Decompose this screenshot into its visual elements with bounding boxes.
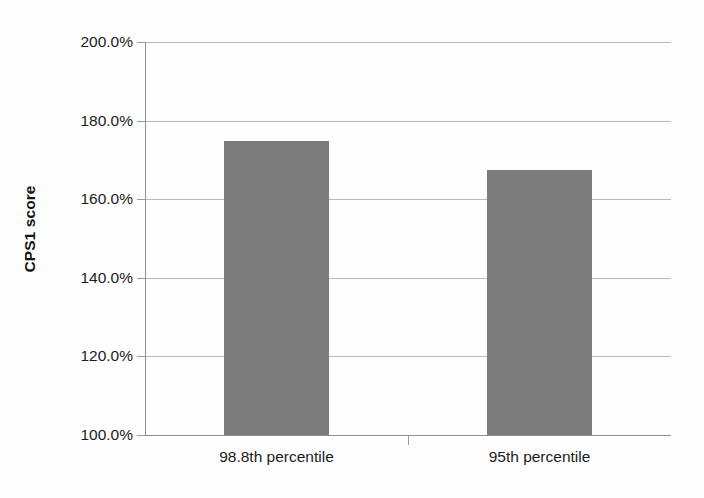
y-tick-label: 200.0% [13,34,133,50]
y-axis-title: CPS1 score [0,0,60,498]
bar [487,170,592,435]
y-tick-label: 140.0% [13,270,133,286]
gridline [146,121,671,122]
bar [224,141,329,435]
x-category-separator-tick [408,436,409,445]
y-tick-label: 120.0% [13,348,133,364]
y-axis-spine [145,42,146,436]
gridline [146,42,671,43]
y-tick-label: 180.0% [13,113,133,129]
x-category-label: 98.8th percentile [145,449,408,465]
bar-chart: CPS1 score 100.0%120.0%140.0%160.0%180.0… [0,0,704,498]
y-tick-label: 160.0% [13,191,133,207]
x-category-label: 95th percentile [408,449,671,465]
y-tick-label: 100.0% [13,427,133,443]
